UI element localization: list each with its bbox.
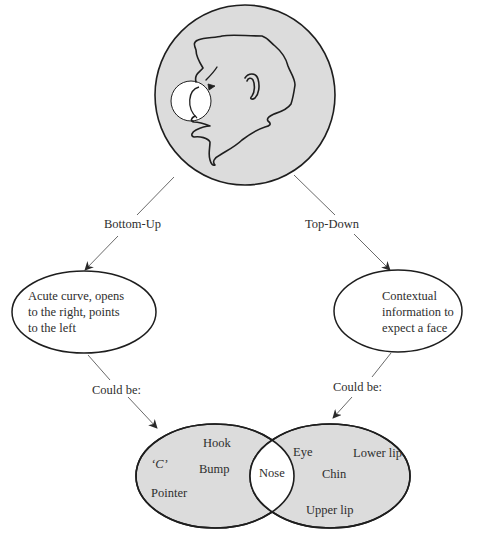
bottom-up-node-text: Acute curve, opens to the right, points … — [28, 288, 124, 336]
venn-item-nose: Nose — [259, 467, 285, 480]
bottom-up-node-line-2: to the right, points — [28, 304, 124, 320]
venn-item-hook: Hook — [203, 437, 231, 450]
right-could-be-line — [372, 353, 391, 377]
bottom-up-line-upper — [137, 177, 174, 215]
venn-item-pointer: Pointer — [151, 487, 187, 500]
top-down-node-text: Contextual information to expect a face — [382, 288, 454, 336]
left-could-be-line — [88, 355, 110, 380]
venn-item-eye: Eye — [293, 446, 312, 459]
left-could-be-label: Could be: — [92, 384, 141, 397]
top-down-line-upper — [294, 175, 335, 215]
right-could-be-arrow — [333, 397, 352, 418]
bottom-up-label: Bottom-Up — [104, 218, 161, 231]
diagram-canvas — [0, 0, 490, 538]
venn-item-upper-lip: Upper lip — [306, 504, 354, 517]
top-down-node-line-3: expect a face — [382, 320, 454, 336]
left-could-be-arrow — [128, 397, 157, 428]
top-down-node-line-2: information to — [382, 304, 454, 320]
venn-item-lower-lip: Lower lip — [353, 447, 402, 460]
top-down-node-line-1: Contextual — [382, 288, 454, 304]
right-could-be-label: Could be: — [333, 381, 382, 394]
top-down-label: Top-Down — [305, 218, 359, 231]
bottom-up-node-line-3: to the left — [28, 320, 124, 336]
face-circle — [155, 5, 335, 185]
bottom-up-arrow — [85, 236, 118, 270]
venn-item-bump: Bump — [199, 463, 230, 476]
venn-item-c: ‘C’ — [151, 458, 168, 471]
top-down-arrow — [354, 234, 390, 270]
venn-item-chin: Chin — [322, 468, 346, 481]
bottom-up-node-line-1: Acute curve, opens — [28, 288, 124, 304]
